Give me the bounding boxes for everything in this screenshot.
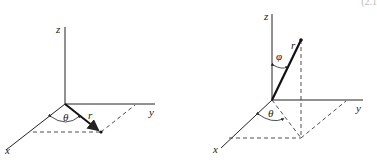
z-label: z bbox=[263, 10, 269, 22]
dashed-projection bbox=[272, 100, 301, 138]
theta-label: θ bbox=[63, 111, 69, 123]
point bbox=[99, 130, 102, 133]
polar-diagram: z y x θ r bbox=[4, 23, 155, 156]
point bbox=[299, 38, 303, 42]
coordinate-diagrams: z y x θ r z y x φ θ r bbox=[0, 0, 377, 164]
r-vector bbox=[272, 40, 301, 100]
y-label: y bbox=[355, 102, 361, 114]
phi-label: φ bbox=[276, 50, 282, 62]
y-label: y bbox=[148, 106, 154, 118]
spherical-diagram: z y x φ θ r bbox=[212, 10, 363, 155]
r-label: r bbox=[88, 109, 93, 121]
dashed-parallel-y bbox=[301, 101, 346, 138]
r-vector bbox=[65, 104, 98, 130]
r-label: r bbox=[291, 39, 296, 51]
x-axis bbox=[6, 104, 65, 150]
theta-label: θ bbox=[268, 107, 274, 119]
z-label: z bbox=[55, 23, 61, 35]
x-label: x bbox=[212, 143, 218, 155]
x-axis bbox=[221, 100, 272, 148]
phi-arc bbox=[273, 65, 287, 68]
dashed-parallel-y bbox=[101, 105, 135, 132]
x-label: x bbox=[4, 144, 10, 156]
